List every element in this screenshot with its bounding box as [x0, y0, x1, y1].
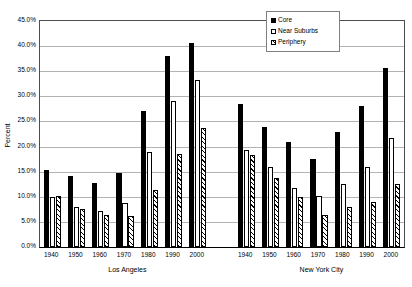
- bar-near: [292, 188, 297, 247]
- bar-near: [195, 80, 200, 247]
- bar-core: [262, 127, 267, 247]
- bar-near: [147, 152, 152, 247]
- bar-near: [244, 150, 249, 247]
- bar-peri: [298, 197, 303, 247]
- x-axis-tick-label: 1970: [117, 252, 131, 259]
- gridline: [40, 71, 404, 72]
- bar-peri: [56, 196, 61, 247]
- x-axis-tick-label: 1960: [286, 252, 300, 259]
- bar-peri: [395, 184, 400, 247]
- y-axis-tick-label: 40.0%: [18, 42, 36, 49]
- bar-core: [189, 43, 194, 247]
- gridline: [40, 121, 404, 122]
- y-axis-tick-label: 0.0%: [21, 243, 36, 250]
- x-axis-tick-label: 1980: [335, 252, 349, 259]
- bar-core: [44, 170, 49, 247]
- y-axis-tick-label: 20.0%: [18, 142, 36, 149]
- bar-near: [98, 211, 103, 247]
- bar-near: [341, 184, 346, 247]
- y-axis-tick-label: 30.0%: [18, 92, 36, 99]
- legend-label-core: Core: [278, 17, 292, 24]
- legend-item-near-suburbs: Near Suburbs: [271, 26, 335, 37]
- bar-near: [171, 101, 176, 247]
- bar-near: [74, 207, 79, 247]
- bar-near: [365, 167, 370, 247]
- group-label: New York City: [300, 266, 344, 273]
- legend-item-periphery: Periphery: [271, 37, 335, 48]
- bar-peri: [201, 128, 206, 247]
- bar-peri: [128, 216, 133, 247]
- gridline: [40, 96, 404, 97]
- bar-core: [383, 68, 388, 247]
- bar-near: [50, 197, 55, 247]
- bar-core: [238, 104, 243, 247]
- bar-near: [389, 138, 394, 247]
- bar-peri: [104, 215, 109, 247]
- bar-core: [116, 173, 121, 247]
- x-axis-tick-label: 1980: [141, 252, 155, 259]
- x-axis-tick-label: 1940: [44, 252, 58, 259]
- x-axis-tick-label: 1940: [238, 252, 252, 259]
- x-axis-tick-label: 1990: [359, 252, 373, 259]
- bar-near: [268, 167, 273, 247]
- x-axis-tick-label: 1950: [68, 252, 82, 259]
- plot-area: [39, 20, 405, 248]
- legend-swatch-near-suburbs-icon: [271, 29, 276, 34]
- bar-near: [316, 196, 321, 247]
- bar-peri: [250, 155, 255, 247]
- bar-chart: 0.0%5.0%10.0%15.0%20.0%25.0%30.0%35.0%40…: [0, 0, 412, 287]
- bar-core: [359, 106, 364, 247]
- bar-core: [68, 176, 73, 247]
- x-axis-tick-label: 1970: [311, 252, 325, 259]
- gridline: [40, 147, 404, 148]
- y-axis-tick-label: 45.0%: [18, 17, 36, 24]
- bar-core: [92, 183, 97, 247]
- y-axis-title: Percent: [4, 116, 11, 156]
- legend-swatch-core-icon: [271, 18, 276, 23]
- y-axis-tick-label: 10.0%: [18, 193, 36, 200]
- bar-core: [165, 56, 170, 247]
- bar-peri: [274, 178, 279, 247]
- legend-label-near-suburbs: Near Suburbs: [278, 28, 318, 35]
- bar-core: [286, 142, 291, 247]
- legend-label-periphery: Periphery: [278, 39, 306, 46]
- bar-peri: [322, 215, 327, 247]
- bar-near: [122, 203, 127, 247]
- bar-core: [141, 111, 146, 247]
- bar-core: [310, 159, 315, 247]
- x-axis-tick-label: 2000: [190, 252, 204, 259]
- x-axis-tick-label: 1960: [92, 252, 106, 259]
- y-axis-tick-label: 5.0%: [21, 218, 36, 225]
- bar-peri: [371, 202, 376, 247]
- bar-peri: [347, 207, 352, 247]
- bar-core: [335, 132, 340, 248]
- chart-legend: Core Near Suburbs Periphery: [266, 11, 340, 52]
- bar-peri: [153, 190, 158, 247]
- legend-swatch-periphery-icon: [271, 40, 276, 45]
- group-label: Los Angeles: [108, 266, 146, 273]
- y-axis-tick-label: 15.0%: [18, 167, 36, 174]
- x-axis-tick-label: 1990: [165, 252, 179, 259]
- gridline: [40, 46, 404, 47]
- x-axis-tick-label: 1950: [262, 252, 276, 259]
- bar-peri: [80, 209, 85, 247]
- y-axis-tick-label: 25.0%: [18, 117, 36, 124]
- gridline: [40, 172, 404, 173]
- y-axis-tick-label: 35.0%: [18, 67, 36, 74]
- legend-item-core: Core: [271, 15, 335, 26]
- bar-peri: [177, 154, 182, 247]
- x-axis-tick-label: 2000: [384, 252, 398, 259]
